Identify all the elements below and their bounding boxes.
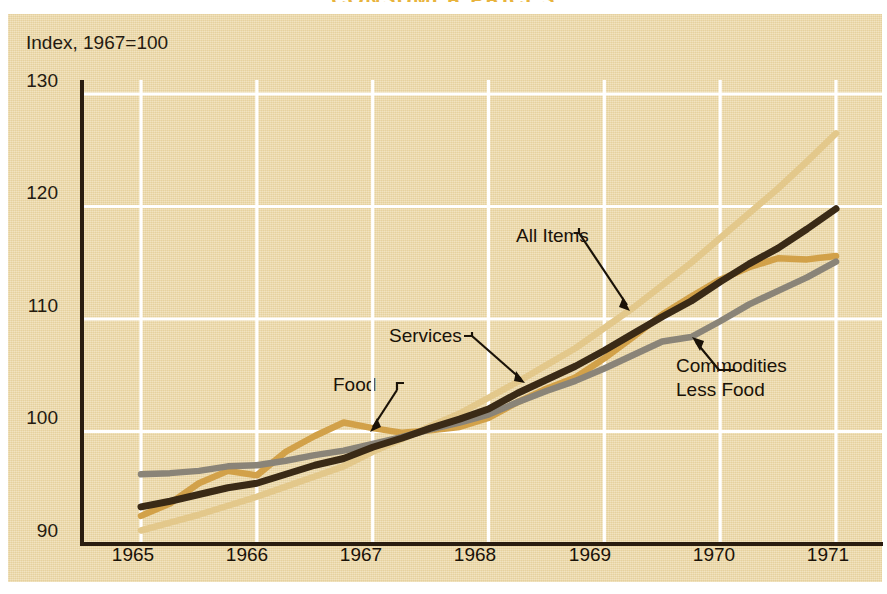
y-tick-120: 120 bbox=[8, 182, 58, 204]
chart-card: Index, 1967=100 130 120 110 100 90 1965 … bbox=[8, 14, 882, 582]
y-tick-90: 90 bbox=[8, 520, 58, 542]
chart-page: CONSUMER PRICES Index, 1967=100 130 120 … bbox=[0, 0, 887, 594]
y-tick-110: 110 bbox=[8, 295, 58, 317]
plot-area bbox=[74, 80, 883, 558]
y-tick-130: 130 bbox=[8, 70, 58, 92]
axis-lines bbox=[80, 80, 883, 544]
annotation-leaders bbox=[370, 228, 735, 432]
gridlines bbox=[82, 80, 883, 544]
y-axis-title: Index, 1967=100 bbox=[26, 32, 168, 54]
y-tick-100: 100 bbox=[8, 407, 58, 429]
chart-headline: CONSUMER PRICES bbox=[0, 0, 887, 2]
chart-svg bbox=[74, 80, 883, 558]
